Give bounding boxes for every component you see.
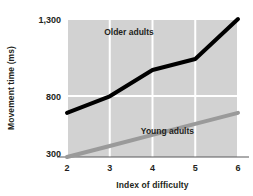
y-tick-label-800: 800 — [46, 92, 61, 102]
x-axis-title: Index of difficulty — [116, 180, 188, 190]
y-axis-title: Movement time (ms) — [6, 46, 16, 130]
chart-figure: 1,300 800 300 2 3 4 5 6 Index of difficu… — [0, 0, 253, 196]
x-tick-label-3: 3 — [107, 163, 112, 173]
y-tick-label-1300: 1,300 — [38, 15, 61, 25]
x-tick-label-6: 6 — [235, 163, 240, 173]
x-tick-label-2: 2 — [64, 163, 69, 173]
x-tick-label-5: 5 — [193, 163, 198, 173]
movement-time-line-chart: 1,300 800 300 2 3 4 5 6 Index of difficu… — [0, 0, 253, 196]
x-tick-label-4: 4 — [150, 163, 155, 173]
series-annotation-young-adults: Young adults — [141, 126, 194, 136]
y-tick-label-300: 300 — [46, 149, 61, 159]
series-annotation-older-adults: Older adults — [104, 27, 154, 37]
